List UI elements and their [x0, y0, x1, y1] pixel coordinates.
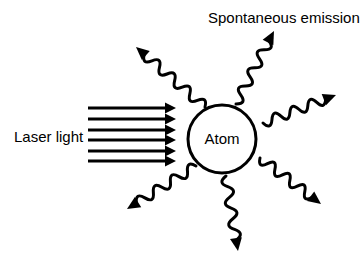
- laser-arrow-head-2: [165, 114, 176, 125]
- laser-arrow-head-5: [165, 146, 176, 157]
- laser-arrow-head-1: [165, 103, 176, 114]
- laser-arrow-head-6: [165, 156, 176, 167]
- emission-arrowhead-lower-left: [127, 197, 141, 209]
- emission-arrowhead-upper-left: [136, 47, 150, 60]
- emission-wave-top: [236, 41, 271, 104]
- emission-wave-lower-right: [260, 158, 313, 199]
- laser-beam-arrows: [88, 103, 176, 167]
- emission-wave-upper-left: [144, 54, 206, 107]
- emission-arrowhead-bottom: [230, 237, 242, 251]
- atom-label: Atom: [204, 130, 239, 147]
- spontaneous-emission-title: Spontaneous emission: [208, 9, 360, 26]
- emission-wave-upper-right: [263, 99, 326, 126]
- laser-arrow-head-4: [165, 135, 176, 146]
- emission-wave-lower-left: [136, 164, 196, 203]
- diagram-svg: Atom Spontaneous emission Laser light: [0, 0, 364, 266]
- laser-arrow-head-3: [165, 125, 176, 136]
- emission-wave-bottom: [222, 176, 240, 240]
- laser-light-label: Laser light: [14, 128, 84, 145]
- diagram-canvas: Atom Spontaneous emission Laser light: [0, 0, 364, 266]
- emission-arrowhead-top: [263, 31, 274, 45]
